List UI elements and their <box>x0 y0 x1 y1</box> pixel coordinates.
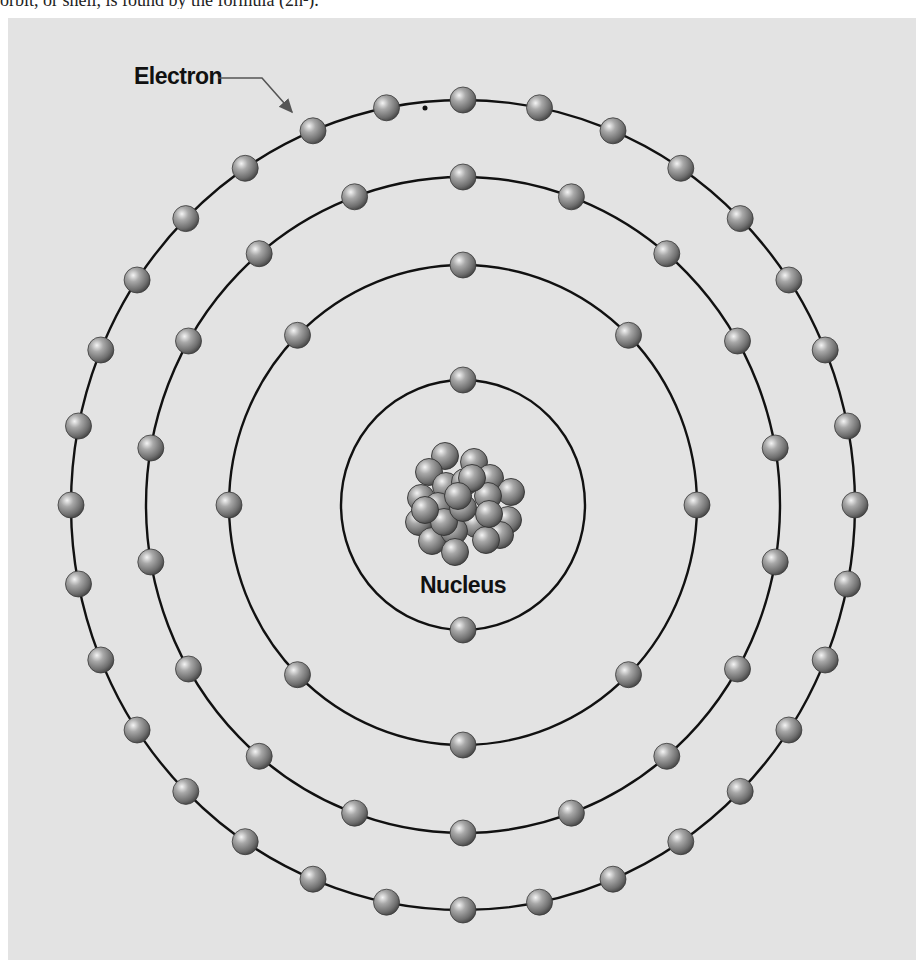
electron-icon <box>450 732 476 758</box>
stray-dot <box>423 106 428 111</box>
electron-label: Electron <box>134 63 222 89</box>
electron-icon <box>285 322 311 348</box>
electron-icon <box>616 662 642 688</box>
electron-icon <box>812 337 838 363</box>
electron-icon <box>342 184 368 210</box>
electron-icon <box>654 241 680 267</box>
nucleon-icon <box>445 483 472 510</box>
electron-icon <box>450 164 476 190</box>
electron-icon <box>88 337 114 363</box>
electron-icon <box>173 778 199 804</box>
electron-icon <box>285 662 311 688</box>
nucleon-icon <box>442 539 469 566</box>
electron-icon <box>374 889 400 915</box>
electron-icon <box>600 118 626 144</box>
electron-icon <box>176 656 202 682</box>
electron-icon <box>668 155 694 181</box>
electron-icon <box>138 435 164 461</box>
electron-icon <box>58 492 84 518</box>
electron-icon <box>450 367 476 393</box>
electron-icon <box>616 322 642 348</box>
nucleon-icon <box>476 501 503 528</box>
electron-icon <box>173 206 199 232</box>
electron-icon <box>342 800 368 826</box>
electron-icon <box>776 717 802 743</box>
electron-icon <box>88 647 114 673</box>
electron-icon <box>762 549 788 575</box>
electron-icon <box>835 571 861 597</box>
electron-icon <box>668 829 694 855</box>
nucleon-icon <box>412 497 439 524</box>
electron-icon <box>450 87 476 113</box>
electron-icon <box>450 820 476 846</box>
electron-icon <box>246 743 272 769</box>
electron-icon <box>727 778 753 804</box>
electron-icon <box>776 267 802 293</box>
electron-icon <box>600 866 626 892</box>
nucleon-icon <box>498 479 525 506</box>
electron-icon <box>762 435 788 461</box>
electron-icon <box>300 866 326 892</box>
electron-icon <box>216 492 242 518</box>
electron-icon <box>842 492 868 518</box>
electron-icon <box>124 267 150 293</box>
electron-icon <box>727 206 753 232</box>
electron-icon <box>300 118 326 144</box>
electron-icon <box>725 328 751 354</box>
electron-icon <box>684 492 710 518</box>
electron-icon <box>176 328 202 354</box>
electron-icon <box>654 743 680 769</box>
electron-icon <box>124 717 150 743</box>
electron-icon <box>450 897 476 923</box>
electron-icon <box>66 571 92 597</box>
electron-icon <box>374 95 400 121</box>
electron-icon <box>232 829 258 855</box>
electron-icon <box>232 155 258 181</box>
electron-icon <box>450 617 476 643</box>
nucleon-icon <box>473 527 500 554</box>
nucleus-cluster <box>406 443 525 566</box>
electron-pointer-arrow <box>218 78 292 112</box>
electron-icon <box>66 413 92 439</box>
electron-icon <box>835 413 861 439</box>
electron-icon <box>725 656 751 682</box>
electron-icon <box>138 549 164 575</box>
nucleus-label: Nucleus <box>420 572 506 598</box>
electron-icon <box>558 800 584 826</box>
electron-icon <box>558 184 584 210</box>
electron-icon <box>246 241 272 267</box>
electron-icon <box>450 252 476 278</box>
atom-diagram: Electron Nucleus <box>0 0 924 965</box>
electron-icon <box>812 647 838 673</box>
electron-icon <box>527 95 553 121</box>
electron-icon <box>527 889 553 915</box>
